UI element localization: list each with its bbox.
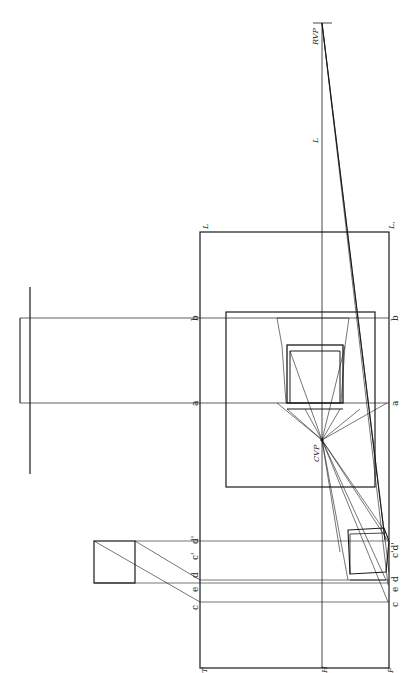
cvp-ray-9: [322, 440, 348, 580]
svg-text:L: L: [311, 138, 320, 144]
plan-diag-1: [94, 541, 200, 602]
svg-text:CVP: CVP: [312, 444, 321, 462]
svg-text:b: b: [190, 315, 200, 321]
label-b-right: b: [390, 315, 400, 321]
outer-frame: [200, 232, 389, 668]
label-l-frame-left: L: [201, 224, 210, 230]
svg-text:L,: L,: [387, 221, 396, 230]
svg-text:RVP: RVP: [311, 27, 320, 46]
svg-text:c: c: [390, 602, 400, 607]
inner-frame: [226, 312, 375, 487]
label-d-left: d: [190, 572, 200, 578]
svg-text:d: d: [390, 576, 400, 582]
label-cvp: CVP: [312, 444, 321, 462]
label-cdprime-right: c'd': [390, 542, 400, 558]
label-t: T: [200, 667, 209, 673]
svg-text:a: a: [190, 400, 200, 406]
label-a-left: a: [190, 400, 200, 406]
svg-text:d': d': [190, 536, 200, 544]
label-dprime-left: d': [190, 536, 200, 544]
svg-text:H: H: [320, 665, 329, 673]
label-c-right: c: [390, 602, 400, 607]
cvp-point: [321, 439, 323, 441]
label-b-left: b: [190, 315, 200, 321]
svg-text:c: c: [190, 605, 200, 610]
svg-text:a: a: [390, 400, 400, 406]
floor-cube-outline: [348, 528, 389, 574]
label-h: H: [320, 665, 329, 673]
cvp-ray-14: [322, 440, 340, 552]
svg-text:L: L: [201, 224, 210, 230]
svg-text:F: F: [386, 667, 395, 673]
alcove-back: [287, 345, 343, 403]
cvp-ray-2: [287, 409, 322, 440]
svg-text:c': c': [190, 552, 200, 560]
label-a-right: a: [390, 400, 400, 406]
alcove-outline: [277, 318, 349, 403]
cvp-ray-10: [322, 440, 386, 580]
label-c-left: c: [190, 605, 200, 610]
cvp-ray-11: [322, 440, 388, 541]
label-e-left: e: [190, 587, 200, 592]
cvp-ray-5: [322, 409, 340, 440]
cvp-ray-4: [305, 409, 322, 440]
floor-cube-inner-top: [350, 533, 385, 534]
perspective-diagram: RVP L L L, b b a a CVP d' c' d e c c'd' …: [0, 0, 416, 673]
svg-text:e: e: [190, 587, 200, 592]
rvp-ray-2: [322, 23, 389, 572]
label-d-right: d: [390, 576, 400, 582]
label-rvp: RVP: [311, 27, 320, 46]
label-cprime-left: c': [190, 552, 200, 560]
label-e-right: e: [390, 587, 400, 592]
svg-text:T: T: [200, 667, 209, 673]
svg-text:c'd': c'd': [390, 542, 400, 558]
svg-text:b: b: [390, 315, 400, 321]
label-f: F: [386, 667, 395, 673]
label-l-frame-right: L,: [387, 221, 396, 230]
label-l-upper: L: [311, 138, 320, 144]
svg-text:e: e: [390, 587, 400, 592]
cvp-ray-8: [322, 409, 360, 440]
plan-square: [94, 541, 135, 583]
svg-text:d: d: [190, 572, 200, 578]
